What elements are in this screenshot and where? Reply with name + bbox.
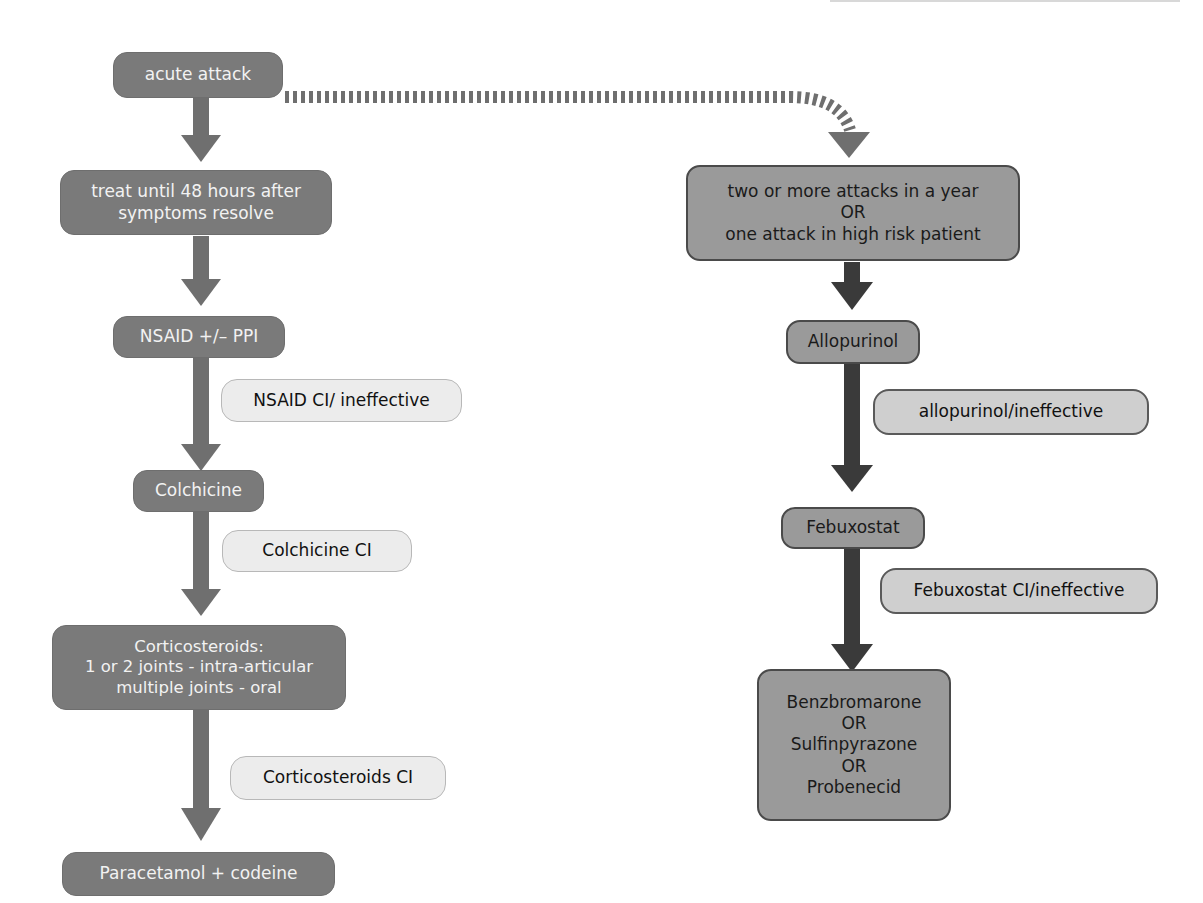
node-febuxostat: Febuxostat <box>781 507 925 549</box>
nsaid-label: NSAID +/– PPI <box>140 326 258 347</box>
allopurinol-label: Allopurinol <box>808 331 899 352</box>
paracetamol-label: Paracetamol + codeine <box>100 863 298 884</box>
corticosteroids-ci-label: Corticosteroids CI <box>263 767 413 788</box>
febuxostat-ci-label: Febuxostat CI/ineffective <box>914 580 1125 601</box>
node-allopurinol: Allopurinol <box>786 320 920 364</box>
acute-attack-label: acute attack <box>145 64 251 85</box>
nsaid-ci-label: NSAID CI/ ineffective <box>253 390 429 411</box>
label-colchicine-ci: Colchicine CI <box>222 530 412 572</box>
dotted-connector <box>285 97 850 130</box>
treat-until-label: treat until 48 hours after symptoms reso… <box>91 181 301 224</box>
node-criteria: two or more attacks in a year OR one att… <box>686 165 1020 261</box>
colchicine-label: Colchicine <box>155 480 242 501</box>
criteria-label: two or more attacks in a year OR one att… <box>725 181 980 245</box>
label-allopurinol-ci: allopurinol/ineffective <box>873 389 1149 435</box>
node-corticosteroids: Corticosteroids: 1 or 2 joints - intra-a… <box>52 625 346 710</box>
uricosurics-label: Benzbromarone OR Sulfinpyrazone OR Probe… <box>787 692 922 798</box>
node-colchicine: Colchicine <box>133 470 264 512</box>
label-febuxostat-ci: Febuxostat CI/ineffective <box>880 568 1158 614</box>
label-corticosteroids-ci: Corticosteroids CI <box>230 756 446 800</box>
node-uricosurics: Benzbromarone OR Sulfinpyrazone OR Probe… <box>757 669 951 821</box>
node-paracetamol: Paracetamol + codeine <box>62 852 335 896</box>
connector-arrows <box>0 0 1203 903</box>
corticosteroids-label: Corticosteroids: 1 or 2 joints - intra-a… <box>85 637 313 699</box>
colchicine-ci-label: Colchicine CI <box>262 540 371 561</box>
febuxostat-label: Febuxostat <box>806 517 899 538</box>
allopurinol-ci-label: allopurinol/ineffective <box>919 401 1104 422</box>
label-nsaid-ci: NSAID CI/ ineffective <box>221 379 462 422</box>
dotted-arrowhead <box>828 132 870 158</box>
node-treat-until: treat until 48 hours after symptoms reso… <box>60 170 332 235</box>
node-nsaid: NSAID +/– PPI <box>113 316 285 358</box>
node-acute-attack: acute attack <box>113 52 283 98</box>
